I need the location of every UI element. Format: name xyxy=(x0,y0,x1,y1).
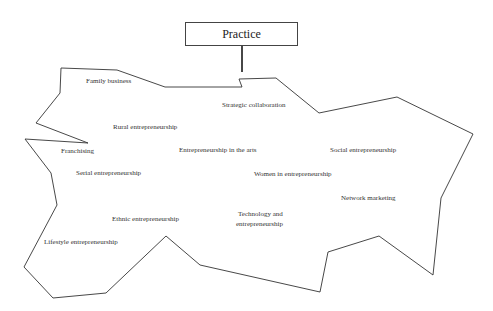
label-technology-line2: entrepreneurship xyxy=(236,219,283,229)
label-network-marketing: Network marketing xyxy=(341,193,396,203)
label-technology-and-entrepreneurship: Technology and entrepreneurship xyxy=(236,209,283,229)
label-lifestyle-entrepreneurship: Lifestyle entrepreneurship xyxy=(44,237,118,247)
label-family-business: Family business xyxy=(86,76,131,86)
label-serial-entrepreneurship: Serial entrepreneurship xyxy=(76,168,141,178)
label-women-in-entrepreneurship: Women in entrepreneurship xyxy=(254,169,332,179)
label-technology-line1: Technology and xyxy=(236,209,283,219)
label-ethnic-entrepreneurship: Ethnic entrepreneurship xyxy=(112,214,179,224)
label-social-entrepreneurship: Social entrepreneurship xyxy=(330,145,396,155)
label-strategic-collaboration: Strategic collaboration xyxy=(222,100,286,110)
label-entrepreneurship-in-the-arts: Entrepreneurship in the arts xyxy=(179,145,257,155)
practice-title-box: Practice xyxy=(185,22,298,46)
label-franchising: Franchising xyxy=(61,146,94,156)
label-rural-entrepreneurship: Rural entrepreneurship xyxy=(113,122,177,132)
practice-title: Practice xyxy=(222,27,261,42)
